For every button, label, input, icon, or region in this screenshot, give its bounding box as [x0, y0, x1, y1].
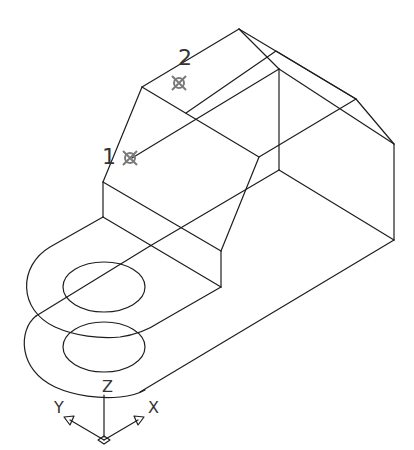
y-axis-line [70, 420, 104, 440]
point-marker-1[interactable] [123, 151, 137, 165]
tab-top-outline [27, 217, 221, 338]
point-label-1: 1 [102, 144, 116, 169]
x-arrowhead-icon [134, 416, 144, 425]
y-arrowhead-icon [64, 416, 74, 425]
edge-inner-bottom-right [279, 170, 394, 240]
hole-top [63, 262, 145, 312]
axis-label-x: X [148, 398, 159, 417]
edge-roof-line-b [142, 87, 356, 157]
edge-roof-right [239, 29, 394, 144]
edge-front-bottom [103, 217, 221, 287]
edge-base-bottom-right [140, 240, 394, 392]
edge-front-top [103, 182, 221, 251]
edge-slot-diag [132, 69, 279, 158]
point-label-2: 2 [178, 45, 192, 70]
axis-label-z: Z [102, 377, 113, 396]
cad-drawing: 1 2 Z Y X [0, 0, 414, 450]
point-marker-2[interactable] [172, 76, 186, 90]
edge-roof-line-c [279, 69, 394, 144]
tab-diag [36, 246, 150, 316]
hole-bottom [63, 322, 145, 372]
axis-label-y: Y [53, 398, 64, 417]
edge-inner-bottom-left [150, 170, 279, 246]
edge-slope-right [221, 157, 259, 251]
x-axis-line [104, 420, 138, 440]
ucs-icon: Z Y X [53, 377, 159, 444]
part-wireframe [24, 29, 394, 398]
tab-bottom-outline [24, 316, 145, 398]
